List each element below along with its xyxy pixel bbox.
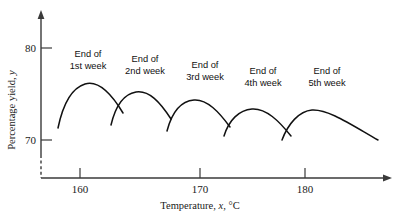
x-axis-title: Temperature, x, °C — [160, 200, 239, 211]
curve-week-3 — [167, 100, 230, 131]
curve-label-group: End of 1st week End of 2nd week End of 3… — [70, 49, 346, 88]
x-tick-label-180: 180 — [297, 183, 314, 195]
curve-label-week-5-line1: End of — [314, 66, 341, 76]
curve-label-week-1-line1: End of — [75, 49, 102, 59]
y-tick-label-70: 70 — [25, 134, 37, 146]
y-axis-title-prefix: Percentage yield, — [6, 75, 17, 150]
curve-week-1 — [58, 83, 123, 128]
x-tick-label-160: 160 — [72, 183, 89, 195]
curve-label-week-3-line2: 3rd week — [186, 72, 224, 82]
curve-label-week-2-line1: End of — [132, 54, 159, 64]
x-tick-group: 160 170 180 — [72, 168, 314, 195]
curve-label-week-2-line2: 2nd week — [125, 66, 165, 76]
svg-text:Percentage yield, y: Percentage yield, y — [6, 70, 17, 150]
chart-figure: 80 70 160 170 180 Temperature, x, °C Per… — [0, 0, 405, 221]
curve-label-week-2: End of 2nd week — [125, 54, 165, 76]
curve-label-week-4-line1: End of — [250, 66, 277, 76]
curve-week-4 — [224, 109, 291, 136]
x-axis-title-prefix: Temperature, — [160, 200, 218, 211]
curve-label-week-5-line2: 5th week — [308, 78, 346, 88]
y-axis — [38, 10, 45, 178]
x-axis-title-suffix: , °C — [223, 200, 239, 211]
curve-label-week-5: End of 5th week — [308, 66, 346, 88]
y-tick-group: 80 70 — [25, 42, 52, 146]
x-axis-arrowhead — [383, 175, 392, 182]
curve-label-week-3: End of 3rd week — [186, 60, 224, 82]
curve-week-5 — [282, 110, 378, 140]
curve-group — [58, 83, 378, 140]
svg-text:Temperature, x, °C: Temperature, x, °C — [160, 200, 239, 211]
curve-label-week-3-line1: End of — [192, 60, 219, 70]
curve-label-week-4: End of 4th week — [244, 66, 282, 88]
y-axis-title-variable: y — [6, 70, 17, 76]
curve-label-week-1: End of 1st week — [70, 49, 107, 71]
x-tick-label-170: 170 — [192, 183, 209, 195]
y-axis-title: Percentage yield, y — [6, 70, 17, 150]
y-tick-label-80: 80 — [25, 42, 37, 54]
x-axis — [41, 175, 392, 182]
curve-label-week-4-line2: 4th week — [244, 78, 282, 88]
curve-label-week-1-line2: 1st week — [70, 61, 107, 71]
chart-svg: 80 70 160 170 180 Temperature, x, °C Per… — [0, 0, 405, 221]
